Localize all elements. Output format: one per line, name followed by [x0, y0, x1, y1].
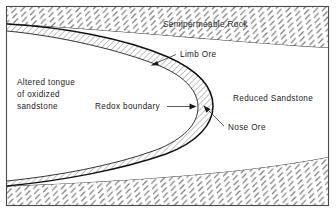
diagram-canvas: Semipermeable Rock Limb Ore Redox bounda…: [0, 0, 336, 213]
label-semipermeable-rock: Semipermeable Rock: [163, 20, 248, 29]
label-altered-tongue-line-3: sandstone: [17, 102, 58, 111]
label-nose-ore: Nose Ore: [228, 123, 266, 132]
label-altered-tongue-line-2: of oxidized: [17, 90, 60, 99]
roll-front-ore-diagram: Semipermeable Rock Limb Ore Redox bounda…: [0, 0, 336, 213]
label-altered-tongue-line-1: Altered tongue: [17, 78, 75, 87]
label-redox-boundary: Redox boundary: [95, 102, 161, 111]
label-limb-ore: Limb Ore: [180, 50, 217, 59]
label-reduced-sandstone: Reduced Sandstone: [233, 94, 313, 103]
